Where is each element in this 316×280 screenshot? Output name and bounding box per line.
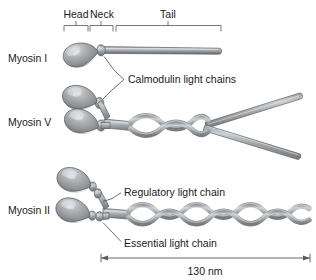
callout-essential: Essential light chain <box>103 223 217 249</box>
myosin-i-neck-collar <box>97 45 106 56</box>
leader-calmodulin-to-myosin-v <box>102 80 125 101</box>
myosin-v-coiled-coil <box>131 114 208 135</box>
callout-label-regulatory: Regulatory light chain <box>124 186 225 198</box>
scale-bar-arrow-right <box>303 255 310 260</box>
scale-bar-arrow-left <box>101 255 108 260</box>
myosin-v-molecule <box>59 81 303 160</box>
callout-calmodulin: Calmodulin light chains <box>102 57 236 101</box>
bracket-label-head: Head <box>63 8 88 20</box>
bracket-head <box>64 21 88 32</box>
bracket-label-tail: Tail <box>160 8 176 20</box>
myosin-v-tail-strand-upper <box>205 93 303 128</box>
callout-label-essential: Essential light chain <box>124 237 217 249</box>
myosin-ii-head-lower <box>52 193 94 230</box>
myosin-ii-neck-collar-lower <box>96 212 103 221</box>
myosin-i-molecule <box>63 42 222 68</box>
myosin-v-neck-link-lower <box>101 122 110 129</box>
bracket-neck <box>90 21 113 32</box>
callout-regulatory: Regulatory light chain <box>103 186 225 201</box>
row-label-myosin-i: Myosin I <box>8 52 47 64</box>
myosin-i-row: Myosin I <box>8 42 222 68</box>
leader-calmodulin-to-myosin-i <box>104 57 124 80</box>
diagram-canvas: Head Neck Tail Myosin I Calmo <box>0 0 316 280</box>
scale-bar: 130 nm <box>101 254 310 277</box>
row-label-myosin-v: Myosin V <box>8 116 51 128</box>
myosin-i-head <box>63 42 98 68</box>
myosin-diagram: Head Neck Tail Myosin I Calmo <box>0 0 316 280</box>
callout-label-calmodulin: Calmodulin light chains <box>128 73 236 85</box>
myosin-ii-head-upper <box>53 162 95 200</box>
scale-bar-label: 130 nm <box>187 265 222 277</box>
myosin-v-head-lower <box>60 104 102 141</box>
myosin-ii-coiled-coil <box>129 203 309 223</box>
bracket-label-neck: Neck <box>90 8 115 20</box>
region-brackets: Head Neck Tail <box>63 8 221 32</box>
myosin-v-row: Myosin V <box>8 81 303 160</box>
row-label-myosin-ii: Myosin II <box>8 204 50 216</box>
bracket-tail <box>116 21 221 32</box>
leader-essential-light-chain <box>103 223 121 242</box>
